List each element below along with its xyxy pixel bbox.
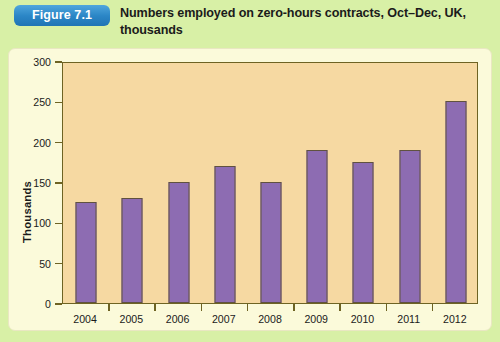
x-axis-tick <box>108 304 109 311</box>
y-axis-tick <box>55 142 62 143</box>
y-axis-tick-label: 300 <box>9 56 51 68</box>
y-axis-tick <box>55 223 62 224</box>
y-axis-tick <box>55 303 62 304</box>
x-axis-tick-label: 2007 <box>199 313 249 325</box>
x-axis-tick-label: 2008 <box>245 313 295 325</box>
y-axis-tick <box>55 182 62 183</box>
bar-2006[interactable] <box>168 182 189 303</box>
bar-2010[interactable] <box>353 162 374 303</box>
bar-slot <box>109 63 155 303</box>
bar-slot <box>248 63 294 303</box>
x-axis-tick <box>201 304 202 311</box>
bar-2011[interactable] <box>399 150 420 303</box>
bar-2008[interactable] <box>260 182 281 303</box>
x-axis-tick-label: 2012 <box>430 313 480 325</box>
x-axis-tick-label: 2006 <box>153 313 203 325</box>
chart-plot-wrapper: Thousands 050100150200250300 20042005200… <box>9 49 493 332</box>
y-axis-tick-label: 0 <box>9 298 51 310</box>
y-axis-tick-label: 150 <box>9 177 51 189</box>
bar-2004[interactable] <box>76 202 97 303</box>
bar-slot <box>155 63 201 303</box>
bar-slot <box>433 63 479 303</box>
chart-card: Thousands 050100150200250300 20042005200… <box>8 48 492 331</box>
x-axis-tick <box>247 304 248 311</box>
bar-slot <box>340 63 386 303</box>
figure-title: Numbers employed on zero-hours contracts… <box>120 5 490 38</box>
x-axis-tick <box>293 304 294 311</box>
plot-area <box>62 62 478 304</box>
bar-2009[interactable] <box>307 150 328 303</box>
x-axis-tick-label: 2005 <box>106 313 156 325</box>
y-axis-tick-label: 50 <box>9 258 51 270</box>
y-axis-tick <box>55 61 62 62</box>
bar-2012[interactable] <box>445 101 466 303</box>
figure-header: Figure 7.1 Numbers employed on zero-hour… <box>0 0 500 48</box>
x-axis-tick-label: 2004 <box>60 313 110 325</box>
y-axis-tick-label: 100 <box>9 217 51 229</box>
y-axis-tick-label: 250 <box>9 96 51 108</box>
y-axis-tick-label: 200 <box>9 137 51 149</box>
bar-2005[interactable] <box>122 198 143 303</box>
y-axis-tick <box>55 263 62 264</box>
bar-2007[interactable] <box>214 166 235 303</box>
bar-slot <box>63 63 109 303</box>
bar-slot <box>387 63 433 303</box>
y-axis-tick <box>55 102 62 103</box>
x-axis-tick-label: 2009 <box>291 313 341 325</box>
x-axis-tick <box>386 304 387 311</box>
bar-slot <box>294 63 340 303</box>
x-axis-tick-label: 2011 <box>384 313 434 325</box>
x-axis-tick <box>154 304 155 311</box>
bars-layer <box>63 63 477 303</box>
x-axis-tick-label: 2010 <box>337 313 387 325</box>
figure-number-badge: Figure 7.1 <box>14 5 110 26</box>
x-axis-tick <box>339 304 340 311</box>
x-axis-tick <box>432 304 433 311</box>
bar-slot <box>202 63 248 303</box>
